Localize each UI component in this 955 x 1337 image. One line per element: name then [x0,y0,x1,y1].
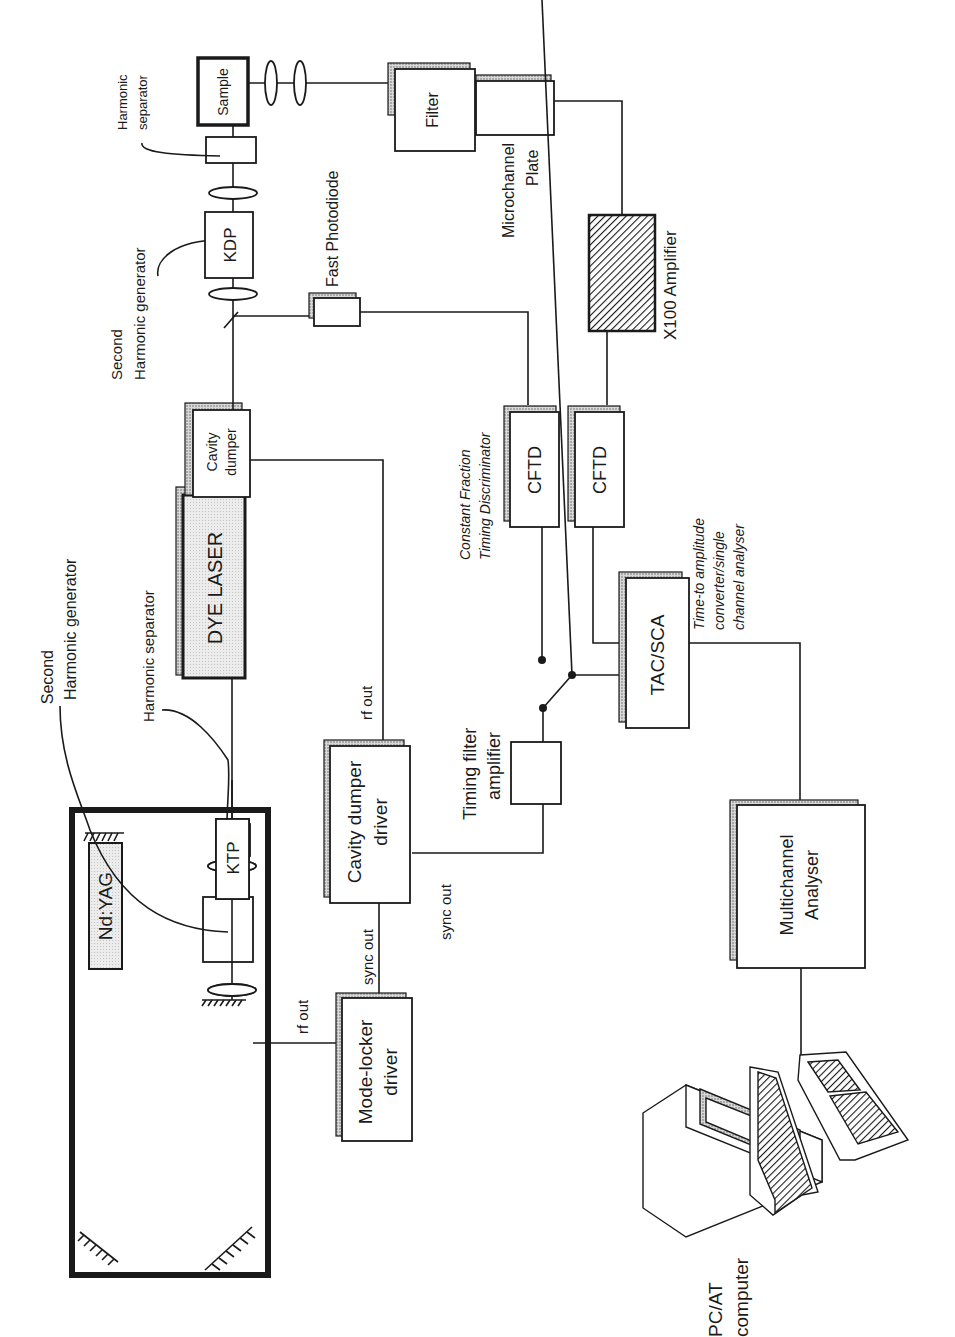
harmonic-separator-2 [206,137,256,163]
cdd-sync-out-label: sync out [437,883,454,940]
cftd-desc-line2: Timing Discriminator [477,431,493,560]
cdd-rf-out-label: rf out [358,685,375,720]
mcp-label-line1: Microchannel [500,143,517,238]
mirror-icon [78,1232,118,1265]
cftd-desc-line1: Constant Fraction [457,449,473,560]
cftd-b: CFTD [568,406,624,527]
cftd-a: CFTD [504,406,559,527]
experimental-setup-diagram: Nd:YAG KTP KTP [0,0,955,1337]
nd-yag-laser: Nd:YAG KTP KTP [72,755,268,1275]
tac-desc-line1: Time-to amplitude [691,518,707,630]
leader-line [162,710,229,820]
microchannel-plate: Microchannel Plate [476,75,554,238]
cftd-a-label: CFTD [525,446,545,494]
fast-photodiode-label: Fast Photodiode [324,170,341,287]
tac-desc-line3: channel analyser [731,523,747,630]
filter: Filter [388,63,475,151]
filter-label: Filter [424,92,441,128]
signal-cable [554,101,622,215]
x100-amplifier: X100 Amplifier [589,215,680,340]
shg2-label-line1: Second [108,329,125,380]
timing-filter-amplifier: Timing filter amplifier [460,728,561,820]
lens-icon [209,187,257,199]
harmonic-separator-2-line2: separator [135,74,150,130]
shg2-label-line2: Harmonic generator [131,247,148,380]
dye-laser-label: DYE LASER [204,532,226,644]
tac-desc-line2: converter/single [711,531,727,630]
computer-label-line2: computer [731,1257,752,1337]
shg1-label-line1: Second [39,650,56,704]
cavity-dumper-line1: Cavity [204,433,220,472]
shg1-label-line2: Harmonic generator [62,558,79,700]
beam-splitter-icon [224,312,238,328]
mirror-icon [205,1227,255,1270]
computer-label-line1: PC/AT [705,1282,726,1337]
cdd-label-line1: Cavity dumper [344,760,365,883]
mode-locker-driver: Mode-locker driver [336,993,412,1141]
switch-contact [538,656,546,664]
kdp-crystal: KDP [205,212,253,278]
tac-sca-label: TAC/SCA [647,614,668,695]
mld-sync-out-label: sync out [359,928,376,985]
lens-icon [265,61,277,105]
mcp-label-line2: Plate [524,149,541,186]
mld-label-line2: driver [380,1048,401,1096]
tfa-label-line1: Timing filter [460,728,480,820]
computer-icon [643,1052,908,1237]
multichannel-analyser: Multichannel Analyser [730,800,865,968]
sample-label: Sample [215,68,231,116]
lens-icon [294,61,306,105]
kdp-label: KDP [221,228,240,263]
tac-sca: TAC/SCA [619,572,689,728]
signal-cable [689,643,800,800]
mode-locker-crystal [203,897,253,962]
cavity-dumper-line2: dumper [223,428,239,476]
signal-cable [360,312,528,405]
tfa-label-line2: amplifier [484,732,504,800]
dye-laser: DYE LASER [176,487,245,678]
mld-label-line1: Mode-locker [355,1019,376,1124]
cdd-label-line2: driver [370,798,391,846]
lens-icon [209,288,257,300]
amplifier-label: X100 Amplifier [661,230,680,340]
cavity-dumper-driver: Cavity dumper driver [324,740,410,903]
harmonic-separator-2-line1: Harmonic [115,74,130,130]
mirror-icon [202,1000,246,1006]
harmonic-separator-1-label: Harmonic separator [140,590,157,722]
switch-arm-icon[interactable] [543,675,572,708]
ktp-label: KTP [224,841,243,874]
cftd-b-label: CFTD [590,446,610,494]
mca-label-line1: Multichannel [777,834,797,935]
mca-label-line2: Analyser [802,850,822,920]
fast-photodiode: Fast Photodiode [309,170,360,326]
nd-yag-label: Nd:YAG [95,872,116,940]
mld-rf-out-label: rf out [294,999,311,1034]
sample: Sample [198,58,248,125]
cavity-dumper: Cavity dumper [185,403,250,497]
